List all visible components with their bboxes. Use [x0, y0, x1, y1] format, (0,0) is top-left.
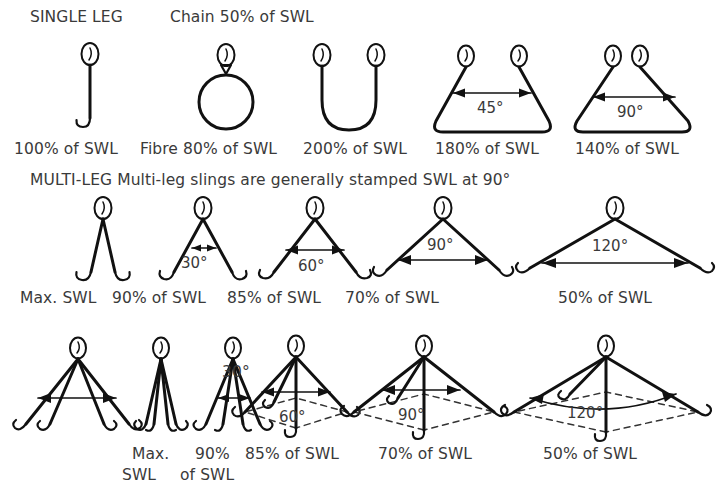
heading-single-leg: SINGLE LEG: [30, 8, 123, 26]
caption-two-leg-parallel: Max. SWL: [20, 289, 97, 307]
diagram-four-leg-120: 120°: [500, 336, 715, 448]
angle-arrow-wide: [38, 393, 116, 403]
caption-basket-45: 180% of SWL: [435, 140, 539, 158]
angle-arrow-90c: [382, 385, 460, 395]
angle-label-120b: 120°: [567, 404, 603, 422]
diagram-basket-45: 45°: [425, 42, 560, 137]
diagram-two-leg-60: 60°: [252, 196, 377, 288]
diagram-four-leg-wide: [12, 336, 147, 441]
heading-chain: Chain 50% of SWL: [170, 8, 314, 26]
angle-arrow-30: [192, 245, 216, 252]
caption-four-leg-120: 50% of SWL: [543, 445, 637, 463]
diagram-four-leg-parallel: [128, 336, 198, 441]
angle-label-120: 120°: [592, 237, 628, 255]
caption-four-leg-60: 85% of SWL: [245, 445, 339, 463]
caption-double-u: 200% of SWL: [303, 140, 407, 158]
angle-label-60: 60°: [298, 257, 325, 275]
caption-four-leg-30-line1: 90%: [195, 445, 230, 463]
angle-arrow-120: [542, 258, 688, 268]
angle-label-45: 45°: [477, 99, 504, 117]
diagram-single-leg: [58, 42, 148, 134]
angle-label-60b: 60°: [279, 408, 306, 426]
diagram-basket-90: 90°: [560, 42, 710, 137]
heading-multi-leg: MULTI-LEG Multi-leg slings are generally…: [30, 171, 510, 189]
caption-two-leg-90: 70% of SWL: [345, 289, 439, 307]
diagram-two-leg-parallel: [58, 196, 148, 288]
caption-four-leg-parallel-line2: SWL: [122, 466, 156, 484]
angle-arrow-45: [453, 89, 531, 98]
angle-label-90c: 90°: [398, 406, 425, 424]
diagram-two-leg-120: 120°: [510, 196, 720, 288]
diagram-two-leg-90: 90°: [370, 196, 515, 288]
diagram-double-u: [300, 42, 410, 137]
caption-basket-90: 140% of SWL: [575, 140, 679, 158]
diagram-four-leg-90: 90°: [340, 336, 520, 448]
caption-four-leg-30-line2: of SWL: [180, 466, 234, 484]
diagram-chain-ring: [180, 42, 290, 134]
angle-arrow-60: [286, 246, 344, 255]
caption-four-leg-90: 70% of SWL: [378, 445, 472, 463]
angle-label-90b: 90°: [427, 236, 454, 254]
caption-four-leg-parallel-line1: Max.: [132, 445, 169, 463]
diagram-two-leg-30: 30°: [148, 196, 258, 288]
caption-chain-ring: Fibre 80% of SWL: [140, 140, 277, 158]
diagram-canvas: SINGLE LEG Chain 50% of SWL MULTI-LEG Mu…: [0, 0, 726, 490]
angle-arrow-90b: [398, 255, 488, 265]
angle-label-90: 90°: [617, 103, 644, 121]
caption-two-leg-120: 50% of SWL: [558, 289, 652, 307]
caption-single-leg: 100% of SWL: [14, 140, 118, 158]
caption-two-leg-60: 85% of SWL: [227, 289, 321, 307]
caption-two-leg-30: 90% of SWL: [112, 289, 206, 307]
angle-label-30: 30°: [181, 254, 208, 272]
